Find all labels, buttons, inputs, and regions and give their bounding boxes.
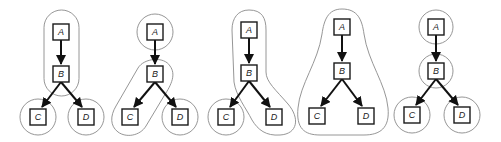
node-d-label: D bbox=[459, 110, 466, 120]
edge-b-c bbox=[230, 81, 249, 107]
node-a: A bbox=[53, 24, 69, 40]
node-d: D bbox=[78, 109, 94, 125]
node-a-label: A bbox=[432, 22, 439, 32]
edge-b-d bbox=[436, 79, 458, 105]
node-a: A bbox=[334, 19, 350, 35]
node-b-label: B bbox=[433, 66, 439, 76]
node-a-label: A bbox=[151, 27, 158, 37]
panel-5: A B C D bbox=[394, 10, 480, 133]
panel-1: A B C D bbox=[20, 10, 104, 135]
panel-3: A B C D bbox=[208, 10, 296, 135]
edge-b-d bbox=[155, 82, 176, 107]
node-b: B bbox=[334, 63, 350, 79]
edge-b-c bbox=[321, 79, 342, 106]
node-c: C bbox=[30, 109, 46, 125]
node-b: B bbox=[428, 63, 444, 79]
node-b-label: B bbox=[246, 68, 252, 78]
panel-2: A B C D bbox=[112, 14, 198, 135]
node-d: D bbox=[358, 108, 374, 124]
node-a-label: A bbox=[338, 22, 345, 32]
node-d-label: D bbox=[363, 111, 370, 121]
node-d: D bbox=[454, 107, 470, 123]
node-c: C bbox=[122, 109, 138, 125]
node-c-label: C bbox=[223, 112, 230, 122]
node-a-label: A bbox=[57, 27, 64, 37]
edge-b-c bbox=[42, 82, 61, 107]
node-d-label: D bbox=[177, 112, 184, 122]
node-c-label: C bbox=[409, 110, 416, 120]
node-d: D bbox=[266, 109, 282, 125]
edge-b-d bbox=[61, 82, 82, 107]
node-b-label: B bbox=[58, 69, 64, 79]
node-c-label: C bbox=[35, 112, 42, 122]
edge-b-c bbox=[416, 79, 436, 105]
node-d: D bbox=[172, 109, 188, 125]
panel-4: A B C D bbox=[298, 9, 389, 135]
node-c: C bbox=[309, 108, 325, 124]
node-c: C bbox=[404, 107, 420, 123]
edge-b-d bbox=[342, 79, 362, 106]
node-b: B bbox=[53, 66, 69, 82]
node-a: A bbox=[241, 22, 257, 38]
node-c: C bbox=[218, 109, 234, 125]
node-c-label: C bbox=[127, 112, 134, 122]
node-d-label: D bbox=[83, 112, 90, 122]
node-b-label: B bbox=[152, 69, 158, 79]
edge-b-c bbox=[134, 82, 155, 107]
node-d-label: D bbox=[271, 112, 278, 122]
node-b-label: B bbox=[339, 66, 345, 76]
edge-b-d bbox=[249, 81, 270, 107]
node-a-label: A bbox=[245, 25, 252, 35]
node-b: B bbox=[147, 66, 163, 82]
node-c-label: C bbox=[314, 111, 321, 121]
node-b: B bbox=[241, 65, 257, 81]
node-a: A bbox=[147, 24, 163, 40]
node-a: A bbox=[428, 19, 444, 35]
clustering-diagram: A B C D A B C bbox=[0, 0, 501, 142]
